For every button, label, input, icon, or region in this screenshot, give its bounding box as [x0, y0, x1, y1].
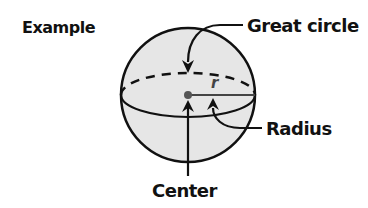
great-circle-label: Great circle: [247, 15, 359, 36]
center-label: Center: [152, 180, 217, 201]
center-dot: [184, 91, 192, 99]
radius-symbol: r: [211, 74, 218, 92]
example-heading: Example: [22, 18, 95, 37]
radius-label: Radius: [266, 118, 332, 139]
